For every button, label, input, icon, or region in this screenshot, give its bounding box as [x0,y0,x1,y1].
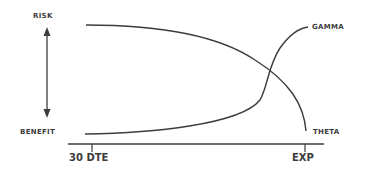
arrow-up-icon [44,27,51,36]
axis-label-exp: EXP [292,153,314,163]
risk-label: Risk [33,10,53,20]
gamma-label: Gamma [312,21,344,31]
benefit-label: Benefit [20,126,55,136]
axis-label-30dte: 30 DTE [69,153,108,163]
arrow-down-icon [44,109,51,118]
theta-label: Theta [313,126,340,136]
gamma-curve [85,27,308,134]
greeks-diagram: Risk Benefit Gamma Theta 30 DTE EXP [0,0,374,174]
theta-curve [86,25,306,131]
